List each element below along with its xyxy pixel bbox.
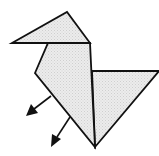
fold-arrow-lower <box>51 117 70 147</box>
body-flap <box>35 43 95 147</box>
fold-arrow-upper <box>26 96 51 116</box>
head-flap <box>12 12 90 43</box>
tail-flap <box>92 71 159 147</box>
origami-bird-figure <box>0 0 159 156</box>
origami-diagram: Origami bird folding step <box>0 0 159 156</box>
arrowhead-icon <box>51 134 61 147</box>
arrowhead-icon <box>26 104 38 116</box>
